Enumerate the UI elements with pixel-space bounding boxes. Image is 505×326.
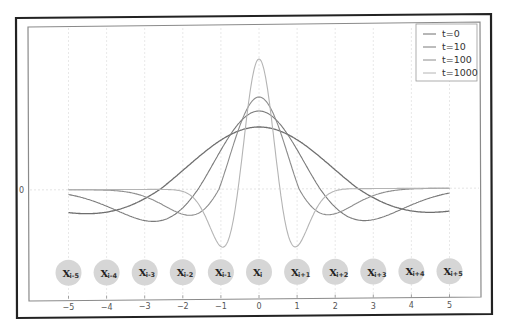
node-subscript: i+2 [336, 271, 348, 279]
x-tick-label: −5 [63, 303, 75, 312]
x-tick-label: −4 [101, 303, 113, 312]
node-x-i-4: Xi-4 [94, 260, 120, 286]
node-subscript: i-2 [184, 271, 193, 279]
legend-label-t10: t=10 [442, 41, 466, 52]
chart-figure: Xi-5Xi-4Xi-3Xi-2Xi-1XiXi+1Xi+2Xi+3Xi+4Xi… [0, 0, 505, 326]
x-tick-label: 5 [447, 301, 452, 310]
node-subscript: i+1 [298, 271, 311, 279]
node-subscript: i-5 [70, 272, 80, 280]
node-x-i+2: Xi+2 [322, 259, 348, 285]
node-x-i-2: Xi-2 [170, 259, 196, 285]
x-tick-label: −2 [177, 302, 189, 311]
node-subscript: i [260, 271, 262, 279]
x-tick-label: 2 [333, 302, 338, 311]
x-tick-label: 0 [256, 302, 261, 311]
x-tick-label: 4 [409, 301, 414, 310]
x-tick-label: 1 [295, 302, 300, 311]
y-tick-label: 0 [19, 186, 24, 195]
node-subscript: i+4 [412, 270, 425, 278]
node-x-i: Xi [246, 259, 272, 285]
legend: t=0 t=10 t=100 t=1000 [416, 24, 478, 81]
node-x-i-3: Xi-3 [132, 259, 158, 285]
node-subscript: i+5 [451, 270, 464, 278]
node-x-i-1: Xi-1 [208, 259, 234, 285]
node-x-i+3: Xi+3 [360, 259, 386, 285]
legend-label-t0: t=0 [442, 28, 460, 39]
x-tick-label: −3 [139, 302, 151, 311]
legend-label-t100: t=100 [442, 54, 472, 65]
node-subscript: i+3 [374, 271, 386, 279]
x-tick-label: 3 [371, 302, 376, 311]
node-subscript: i-4 [108, 272, 118, 280]
legend-label-t1000: t=1000 [442, 67, 478, 78]
y-axis-ticks: 0 [19, 186, 24, 195]
node-x-i-5: Xi-5 [56, 260, 82, 286]
node-subscript: i-3 [146, 271, 155, 279]
node-subscript: i-1 [222, 271, 232, 279]
x-tick-label: −1 [215, 302, 227, 311]
